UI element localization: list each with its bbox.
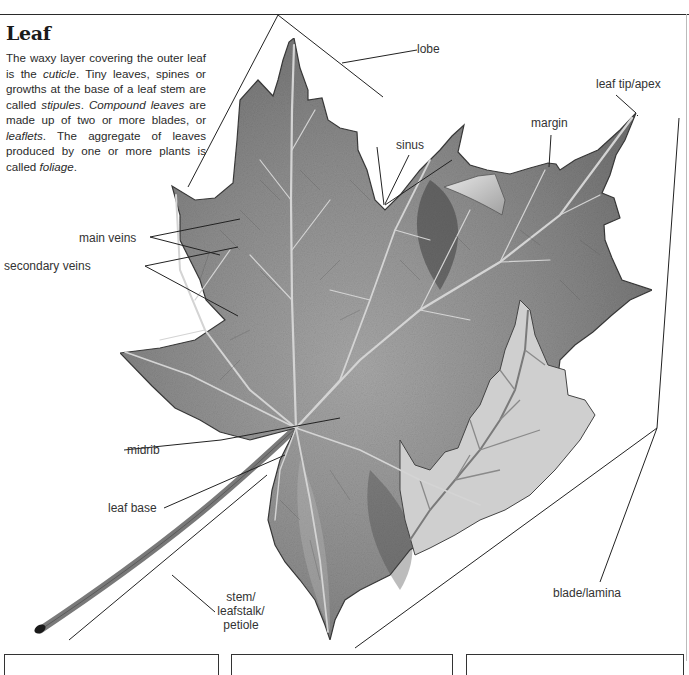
label-stem-line1: stem/	[208, 590, 274, 604]
label-sinus: sinus	[396, 138, 424, 152]
label-leaf-tip: leaf tip/apex	[596, 77, 661, 91]
label-stem: stem/ leafstalk/ petiole	[208, 590, 274, 632]
label-blade: blade/lamina	[553, 586, 621, 600]
label-stem-line2: leafstalk/	[208, 604, 274, 618]
bottom-panel-3	[466, 654, 684, 675]
label-lobe: lobe	[417, 42, 440, 56]
bottom-panel-1	[4, 654, 219, 675]
label-leaf-base: leaf base	[108, 501, 157, 515]
label-secondary-veins: secondary veins	[4, 259, 91, 273]
label-stem-line3: petiole	[208, 618, 274, 632]
label-main-veins: main veins	[79, 231, 136, 245]
lobe-pointer	[342, 50, 417, 63]
leaf-base-pointer	[164, 455, 285, 508]
bottom-panel-2	[231, 654, 453, 675]
label-midrib: midrib	[127, 443, 160, 457]
label-margin: margin	[531, 116, 568, 130]
margin-pointer	[549, 135, 551, 167]
leaf-tip-pointer	[616, 95, 638, 116]
